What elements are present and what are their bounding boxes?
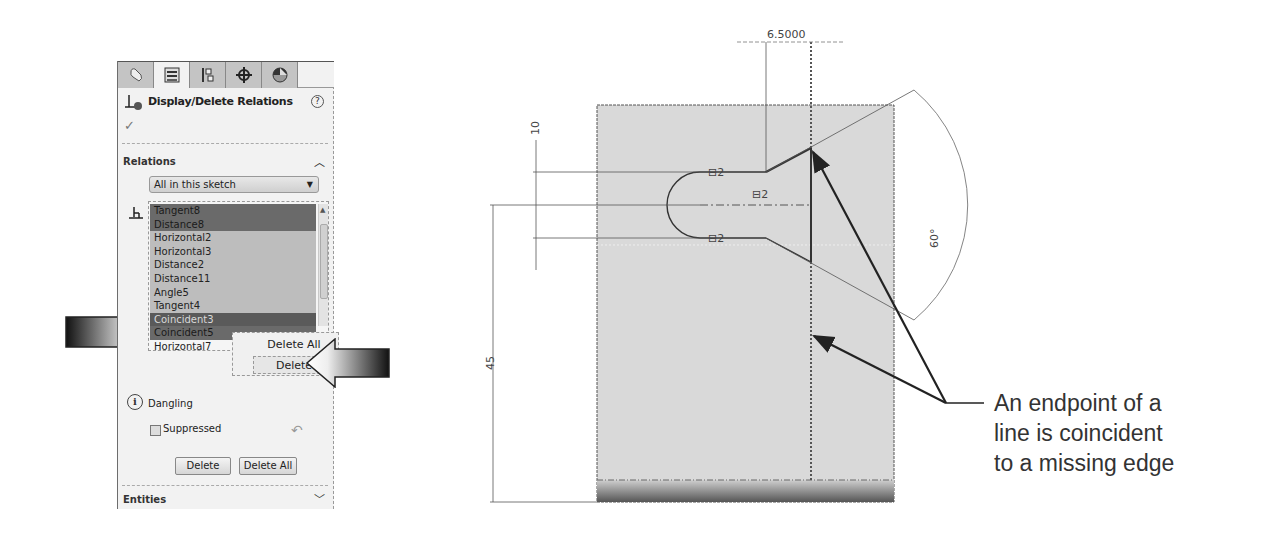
annotation-line: An endpoint of a (994, 388, 1174, 418)
annotation-line: to a missing edge (994, 448, 1174, 478)
part-face[interactable] (597, 105, 894, 502)
relation-glyph: ⊟2 (708, 232, 724, 245)
relation-glyph: ⊟2 (708, 166, 724, 179)
dimension-height-text[interactable]: 45 (484, 356, 497, 370)
dimension-slot-width-text[interactable]: 10 (529, 121, 542, 135)
dimension-angle-text[interactable]: 60° (928, 229, 941, 249)
annotation-line: line is coincident (994, 418, 1174, 448)
dimension-top-width-text: 6.5000 (767, 28, 806, 41)
dimension-angle-arc[interactable] (914, 90, 968, 320)
annotation-text: An endpoint of a line is coincident to a… (994, 388, 1174, 478)
relation-glyph: ⊟2 (752, 188, 768, 201)
